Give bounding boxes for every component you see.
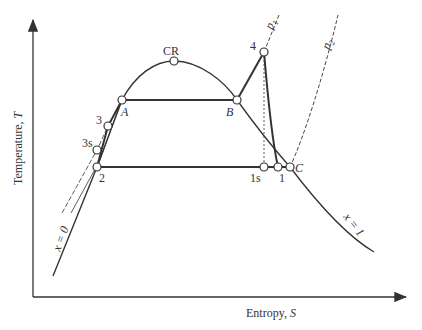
point-A (118, 96, 126, 104)
point-1s (260, 163, 268, 171)
label-4: 4 (250, 39, 256, 53)
label-1s: 1s (250, 171, 261, 185)
label-1: 1 (279, 171, 285, 185)
point-CR (170, 57, 178, 65)
label-B: B (226, 105, 234, 119)
point-C (286, 163, 294, 171)
label-3: 3 (96, 113, 102, 127)
label-p2: p2 (318, 37, 337, 53)
label-C: C (295, 161, 304, 175)
y-axis-title: Temperature, T (11, 111, 25, 185)
point-3 (104, 122, 112, 130)
point-3s (93, 146, 101, 154)
ts-diagram: CR A B 4 3 3s 2 1s 1 C p1 p2 x = 0 x = 1… (0, 0, 422, 330)
point-1 (274, 163, 282, 171)
label-A: A (120, 105, 129, 119)
isobar-p2 (290, 15, 338, 167)
label-CR: CR (163, 44, 179, 58)
label-p1: p1 (261, 17, 280, 33)
label-3s: 3s (82, 136, 93, 150)
label-2: 2 (99, 171, 105, 185)
point-2 (93, 163, 101, 171)
label-x1: x = 1 (340, 209, 367, 238)
x-axis-title: Entropy, S (246, 306, 296, 320)
saturation-dome (122, 61, 237, 100)
point-B (233, 96, 241, 104)
point-4 (260, 48, 268, 56)
